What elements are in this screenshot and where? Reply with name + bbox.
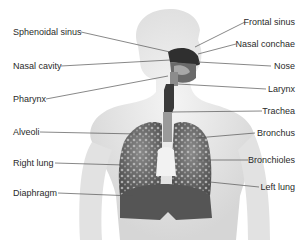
label-nasal-cavity: Nasal cavity — [13, 61, 62, 71]
label-bronchus: Bronchus — [257, 128, 295, 138]
label-pharynx: Pharynx — [13, 94, 46, 104]
label-left-lung: Left lung — [260, 182, 295, 192]
label-sphenoidal-sinus: Sphenoidal sinus — [13, 27, 82, 37]
label-trachea: Trachea — [262, 106, 295, 116]
nasal-region — [168, 48, 200, 86]
label-bronchioles: Bronchioles — [248, 155, 295, 165]
label-larynx: Larynx — [268, 84, 295, 94]
label-alveoli: Alveoli — [13, 127, 40, 137]
label-right-lung: Right lung — [13, 158, 54, 168]
respiratory-system-diagram: Sphenoidal sinus Nasal cavity Pharynx Al… — [0, 0, 302, 242]
label-nasal-conchae: Nasal conchae — [235, 39, 295, 49]
label-diaphragm: Diaphragm — [13, 188, 57, 198]
label-frontal-sinus: Frontal sinus — [243, 17, 295, 27]
label-nose: Nose — [274, 61, 295, 71]
